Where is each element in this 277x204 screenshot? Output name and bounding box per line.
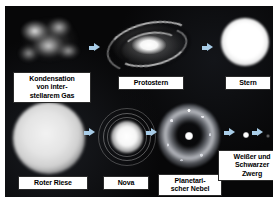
- arrow-head: [94, 43, 100, 51]
- label-white-and-black-dwarf: Weißer und Schwarzer Zwerg: [218, 150, 273, 181]
- arrow-right-icon: [146, 128, 157, 137]
- planetary-nebula-icon: [158, 104, 220, 168]
- arrow-right-icon: [202, 43, 213, 52]
- star-sphere-icon: [221, 18, 269, 66]
- arrow-head: [229, 128, 235, 136]
- nova-core: [111, 121, 143, 153]
- protostar-spiral-disc-icon: [102, 16, 196, 74]
- arrow-head: [89, 128, 95, 136]
- label-red-giant: Roter Riese: [18, 176, 88, 190]
- label-gas-cloud: Kondensation von inter- stellarem Gas: [13, 72, 91, 103]
- arrow-head: [151, 128, 157, 136]
- arrow-right-icon: [252, 128, 263, 137]
- black-dwarf-icon: [266, 134, 270, 138]
- white-dwarf-icon: [243, 132, 249, 138]
- label-nova: Nova: [103, 176, 149, 190]
- label-protostar: Protostern: [118, 76, 184, 90]
- label-star: Stern: [225, 76, 271, 90]
- nebula-central-star: [185, 132, 193, 140]
- nova-icon: [97, 107, 157, 167]
- red-giant-sphere-icon: [13, 102, 85, 174]
- label-planetary-nebula: Planetari- scher Nebel: [158, 174, 222, 196]
- arrow-right-icon: [84, 128, 95, 137]
- space-background: Kondensation von inter- stellarem Gas Pr…: [5, 6, 273, 197]
- arrow-right-icon: [89, 43, 100, 52]
- arrow-right-icon: [224, 128, 235, 137]
- gas-cloud-icon: [12, 10, 88, 72]
- arrow-head: [207, 43, 213, 51]
- stellar-evolution-figure: Kondensation von inter- stellarem Gas Pr…: [0, 0, 277, 204]
- arrow-head: [257, 128, 263, 136]
